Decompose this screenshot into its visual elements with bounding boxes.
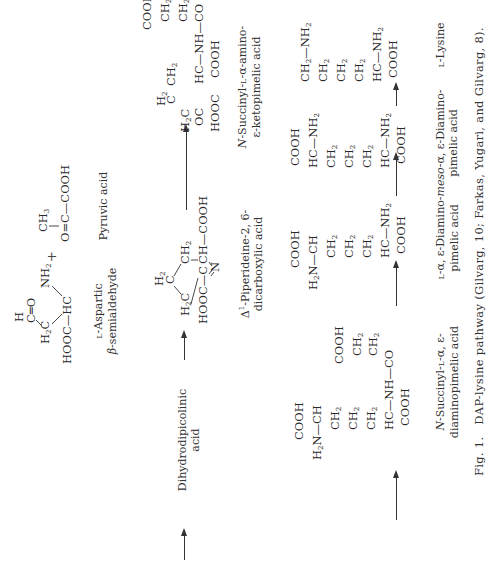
meso-dap-label: meso-α, ε-Diamino- pimelic acid: [434, 78, 460, 208]
plus-sign: +: [44, 251, 59, 262]
figure-caption: Fig. 1. DAP-lysine pathway (Gilvarg, 10;…: [472, 27, 486, 476]
reaction-arrow: [184, 332, 185, 360]
lysine-structure: CH2—NH2 CH2 CH2 CH2 HC—NH2 COOH: [300, 0, 420, 86]
succinyl-ketopimelic-structure: COOH CH2 CH2 H2 C H2C CH2 OC HC—NH—CO HO…: [142, 0, 222, 176]
succinyl-ketopimelic-label: N-Succinyl-L-α-amino- ε-ketopimelic acid: [236, 0, 263, 174]
piperideine-label: Δ1-Piperideine-2, 6- dicarboxylic acid: [236, 194, 265, 334]
pyruvic-acid-label: Pyruvic acid: [97, 166, 110, 246]
meso-dap-structure: COOH HC—NH2 CH2 CH2 CH2 HC—NH2 COOH: [290, 84, 410, 194]
reaction-arrow: [396, 472, 397, 520]
ll-dap-structure: COOH H2N—CH CH2 CH2 CH2 HC—NH2 COOH: [290, 186, 410, 296]
reaction-arrow: [184, 530, 185, 560]
piperideine-structure: H2 C H2C CH2 CH—COOH HOOC—C N: [154, 194, 228, 324]
bond-lines: [14, 264, 84, 364]
pyruvic-acid-structure: CH3 O=C—COOH: [38, 162, 78, 242]
reaction-arrow: [396, 84, 397, 106]
aspartic-semialdehyde-label: L-Aspartic β-semialdehyde: [92, 261, 119, 361]
succinyl-dap-structure: COOH H2N—CH CH2 CH2 CH2 HC—NH—CO COOH CO…: [294, 310, 414, 460]
succinyl-dap-label: N-Succinyl-L-α, ε- diaminopimelic acid: [434, 312, 461, 452]
lysine-label: L-Lysine: [434, 10, 448, 80]
aspartic-semialdehyde-structure: H C═O H2C NH2 HOOC—HC: [14, 264, 84, 364]
dihydrodipicolinic-acid-label: Dihydrodipicolinic acid: [176, 380, 202, 500]
figure-dap-lysine-pathway: H C═O H2C NH2 HOOC—HC L-Aspartic β-semia…: [0, 0, 501, 586]
